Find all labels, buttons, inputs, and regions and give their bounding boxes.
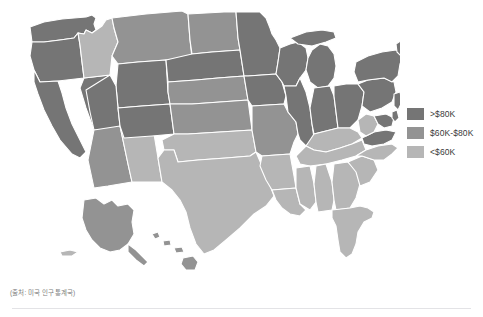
us-choropleth-map [0,0,400,285]
state-pennsylvania [358,78,396,112]
state-montana [112,11,192,64]
bottom-divider [12,308,471,309]
state-new-jersey [394,92,400,110]
state-delaware [392,110,399,122]
state-alabama [314,164,334,212]
source-caption: (출처: 미국 인구통계국) [10,287,75,297]
hawaii-kauai [152,232,160,239]
legend-swatch-low [407,146,424,158]
state-wyoming [116,60,170,108]
legend: >$80K $60K-$80K <$60K [407,105,483,162]
legend-item-mid: $60K-$80K [407,124,483,141]
alaska-aleutians [60,250,78,256]
income-map-figure: >$80K $60K-$80K <$60K (출처: 미국 인구통계국) [0,0,483,317]
hawaii-big-island [181,256,198,270]
state-north-dakota [188,12,240,54]
state-alaska [82,198,134,252]
legend-item-low: <$60K [407,143,483,160]
map-svg [0,0,400,285]
state-michigan-lower [306,44,336,88]
state-michigan-upper [290,30,336,46]
legend-item-high: >$80K [407,105,483,122]
alaska-inset [60,198,148,266]
state-california [34,70,86,158]
hawaii-maui [174,247,184,253]
state-kansas [170,100,252,134]
state-florida [332,206,374,258]
state-wisconsin [276,42,308,86]
state-colorado [118,104,174,138]
state-minnesota [236,12,280,76]
hawaii-inset [152,232,198,270]
legend-swatch-mid [407,127,424,139]
hawaii-oahu [163,240,171,246]
state-texas [158,150,274,254]
state-new-york [354,50,400,82]
legend-swatch-high [407,108,424,120]
legend-label-low: <$60K [430,147,455,157]
legend-label-mid: $60K-$80K [430,128,473,138]
alaska-panhandle [128,244,148,266]
legend-label-high: >$80K [430,109,455,119]
